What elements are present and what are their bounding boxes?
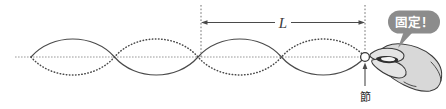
hand-illustration xyxy=(370,44,442,91)
node-arrow-head-icon xyxy=(363,63,368,70)
node-label: 節 xyxy=(360,90,371,104)
figure-canvas: L 節 固定！ xyxy=(0,0,446,109)
fixed-callout-bubble: 固定！ xyxy=(388,11,440,49)
bubble-label: 固定！ xyxy=(395,15,434,30)
length-dimension-line: L xyxy=(201,15,365,31)
length-label: L xyxy=(278,15,287,31)
node-callout: 節 xyxy=(360,63,371,105)
standing-wave-figure: L 節 固定！ xyxy=(0,0,446,109)
fixed-end-node-marker xyxy=(361,53,370,62)
